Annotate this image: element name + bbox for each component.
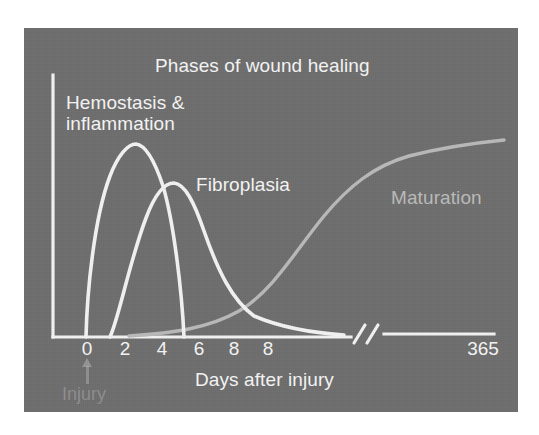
chart-title: Phases of wound healing — [155, 55, 370, 76]
curve-hemostasis-inflammation — [86, 144, 184, 337]
axis-break-slash-1 — [354, 325, 365, 343]
annotation-injury: Injury — [62, 384, 106, 405]
figure-root: Phases of wound healing Hemostasis & inf… — [0, 0, 539, 435]
curve-maturation — [129, 140, 504, 336]
x-tick-label: 6 — [194, 338, 205, 360]
annotation-fibroplasia: Fibroplasia — [196, 174, 290, 195]
curve-fibroplasia — [110, 183, 344, 337]
x-tick-label: 2 — [120, 338, 131, 360]
x-axis-title: Days after injury — [195, 369, 334, 390]
injury-arrow-stem — [86, 366, 89, 384]
x-tick-label: 4 — [157, 338, 168, 360]
axis-break-slash-2 — [367, 325, 378, 343]
x-tick-label: 8 — [263, 338, 274, 360]
annotation-maturation: Maturation — [391, 187, 482, 208]
x-tick-label: 8 — [229, 338, 240, 360]
x-tick-label-far: 365 — [467, 338, 499, 360]
x-tick-label: 0 — [82, 338, 93, 360]
annotation-hemostasis-inflammation: Hemostasis & inflammation — [66, 92, 184, 135]
